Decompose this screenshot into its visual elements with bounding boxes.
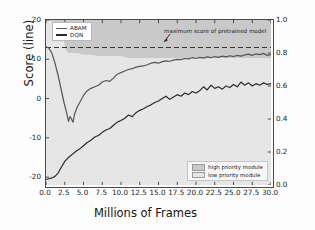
- high-priority-swatch: [192, 164, 205, 171]
- y-tick-right: 0.8: [276, 48, 298, 57]
- legend-label-high-priority: high priority module: [208, 164, 263, 170]
- y-tick-left: 20: [19, 15, 41, 24]
- legend-item-abam: ABAM: [56, 25, 87, 31]
- legend-label-low-priority: low priority module: [208, 172, 260, 178]
- x-axis-title: Millions of Frames: [0, 206, 291, 220]
- area-legend: high priority module low priority module: [187, 161, 268, 181]
- reference-line-annotation: maximum score of pretrained model: [164, 28, 266, 34]
- y-tick-right: 1.0: [276, 15, 298, 24]
- y-tick-left: 0: [19, 94, 41, 103]
- legend-label-dqn: DQN: [70, 32, 83, 38]
- legend-item-low-priority: low priority module: [192, 172, 263, 179]
- y-tick-right: 0.4: [276, 114, 298, 123]
- x-tick: 30.0: [257, 188, 283, 197]
- y-tick-left: 10: [19, 54, 41, 63]
- dqn-line-swatch: [56, 34, 67, 36]
- legend-label-abam: ABAM: [70, 25, 87, 31]
- abam-line-swatch: [56, 28, 67, 29]
- low-priority-swatch: [192, 172, 205, 179]
- line-legend: ABAM DQN: [52, 22, 92, 41]
- legend-item-dqn: DQN: [56, 32, 87, 38]
- y-tick-left: -10: [19, 133, 41, 142]
- y-tick-right: 0.2: [276, 147, 298, 156]
- y-tick-left: -20: [19, 172, 41, 181]
- legend-item-high-priority: high priority module: [192, 164, 263, 171]
- chart-figure: Score (line) Ratio of Selections (area) …: [0, 0, 315, 230]
- y-tick-right: 0.6: [276, 81, 298, 90]
